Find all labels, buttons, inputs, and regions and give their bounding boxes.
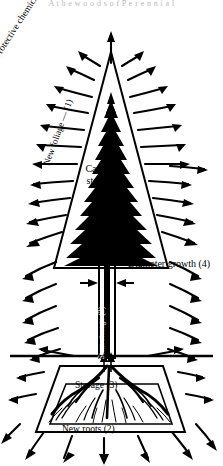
arrow-left-1 [58,88,92,97]
label-canopy-storage-line2: storage [75,175,127,187]
root-system [49,366,170,423]
arrow-lower-right-2 [170,284,198,298]
label-new-roots: New roots (2) [62,424,115,434]
label-canopy-storage: Canopy storage (3) [75,163,127,199]
label-diameter-growth: Diameter growth (4) [128,258,210,269]
arrow-right-3 [138,126,178,130]
arrow-lower-left-1 [26,262,56,276]
label-buds: Buds (1) [107,133,117,165]
arrow-lower-left-2 [26,284,56,298]
arrow-right-2 [134,106,172,113]
label-canopy-storage-line3: (3) [75,187,127,199]
label-storage: Storage (3) [75,380,117,390]
arrow-lower-right-3 [170,306,198,320]
arrow-right-4 [141,145,182,147]
label-canopy-storage-line1: Canopy [75,163,127,175]
arrow-right-1 [130,88,164,97]
tree-carbon-allocation-diagram [0,0,223,466]
label-stem-storage: Stem storage (3) [97,307,106,360]
arrow-lower-left-3 [26,306,56,320]
